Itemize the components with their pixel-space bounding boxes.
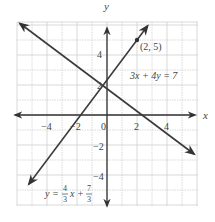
eq-frac1-num: 4 <box>63 184 67 193</box>
eq-frac2-den: 3 <box>87 195 91 204</box>
x-axis-label: x <box>202 109 208 121</box>
y-tick-label: −4 <box>93 171 104 182</box>
eq-mid: x + <box>69 188 84 199</box>
line-label-slope-intercept: y = 4 3 x + 7 3 <box>44 184 92 204</box>
x-tick-label: 0 <box>101 121 106 132</box>
data-point <box>135 38 139 42</box>
point-label: (2, 5) <box>140 41 162 53</box>
y-axis-label: y <box>103 0 109 12</box>
eq-lhs: y = <box>44 188 59 199</box>
x-tick-label: −2 <box>70 121 81 132</box>
y-tick-label: −2 <box>93 141 104 152</box>
x-tick-label: 4 <box>164 121 169 132</box>
coordinate-plane: x y −4 −2 0 2 4 4 2 −2 −4 (2, 5) 3x + 4y… <box>0 0 215 222</box>
y-tick-label: 4 <box>97 49 102 60</box>
eq-frac2-num: 7 <box>87 184 91 193</box>
line-label-3x-4y-7: 3x + 4y = 7 <box>129 70 178 81</box>
x-tick-label: −4 <box>41 121 52 132</box>
y-tick-label: 2 <box>97 80 102 91</box>
eq-frac1-den: 3 <box>63 195 67 204</box>
x-tick-label: 2 <box>134 121 139 132</box>
